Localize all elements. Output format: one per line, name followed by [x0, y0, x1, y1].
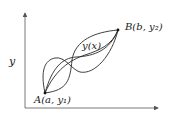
y-axis-label: y	[9, 56, 15, 67]
curves	[43, 30, 118, 93]
variational-diagram	[0, 0, 171, 121]
curve-label: y(x)	[82, 41, 101, 51]
variation-curve-upper	[43, 30, 118, 93]
point-b-dot	[117, 29, 120, 32]
point-b-label: B(b, y₂)	[125, 22, 163, 32]
point-a-label: A(a, y₁)	[34, 95, 71, 105]
